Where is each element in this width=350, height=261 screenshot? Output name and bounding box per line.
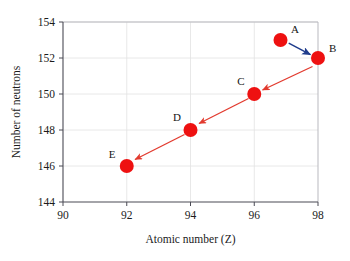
data-point-d[interactable] bbox=[184, 123, 198, 137]
y-tick-label-148: 148 bbox=[38, 124, 56, 136]
data-point-e[interactable] bbox=[120, 159, 134, 173]
data-point-label-e: E bbox=[109, 148, 116, 160]
data-point-label-c: C bbox=[237, 75, 244, 87]
x-tick-label-98: 98 bbox=[312, 209, 324, 221]
data-point-label-b: B bbox=[329, 42, 336, 54]
chart-canvas: 154 152 150 148 146 144 90 92 94 96 98 A… bbox=[0, 0, 350, 261]
y-axis-title: Number of neutrons bbox=[10, 65, 22, 158]
y-tick-label-146: 146 bbox=[38, 160, 56, 172]
y-tick-label-150: 150 bbox=[38, 88, 56, 100]
data-point-label-a: A bbox=[291, 23, 299, 35]
data-point-c[interactable] bbox=[247, 87, 261, 101]
x-axis-title: Atomic number (Z) bbox=[145, 233, 235, 246]
x-tick-label-94: 94 bbox=[185, 209, 197, 221]
data-point-a[interactable] bbox=[274, 33, 288, 47]
decay-chain-chart: 154 152 150 148 146 144 90 92 94 96 98 A… bbox=[0, 0, 350, 261]
y-tick-label-144: 144 bbox=[38, 196, 56, 208]
x-tick-label-96: 96 bbox=[249, 209, 261, 221]
y-tick-label-152: 152 bbox=[38, 52, 56, 64]
x-tickmarks bbox=[63, 202, 318, 206]
y-tickmarks bbox=[59, 22, 63, 202]
x-tick-label-90: 90 bbox=[57, 209, 69, 221]
x-tick-label-92: 92 bbox=[121, 209, 133, 221]
data-point-b[interactable] bbox=[311, 51, 325, 65]
y-tick-label-154: 154 bbox=[38, 16, 56, 28]
data-point-label-d: D bbox=[173, 111, 181, 123]
